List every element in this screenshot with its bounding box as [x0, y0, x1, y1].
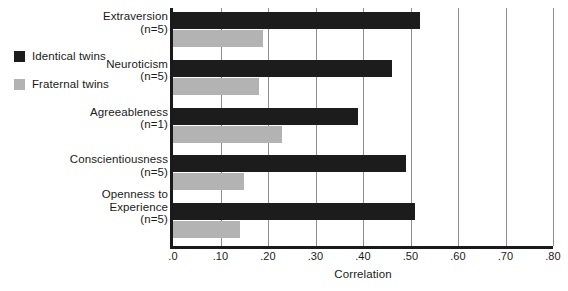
x-axis-line: [170, 246, 553, 249]
gridline: [506, 8, 507, 246]
category-label: Conscientiousness(n=5): [50, 153, 168, 178]
category-label: Extraversion(n=5): [50, 10, 168, 35]
bar-fraternal: [173, 221, 240, 238]
x-tick-label: .70: [498, 250, 514, 263]
x-tick-label: .50: [403, 250, 419, 263]
fraternal-twins-swatch: [14, 79, 25, 90]
x-tick-label: .80: [545, 250, 561, 263]
x-tick-label: .10: [213, 250, 229, 263]
category-label-name: Agreeableness: [50, 106, 168, 119]
category-axis-labels: Extraversion(n=5)Neuroticism(n=5)Agreeab…: [50, 8, 168, 246]
twin-correlation-bar-chart: Identical twins Fraternal twins Extraver…: [0, 0, 568, 291]
bar-identical: [173, 203, 415, 220]
category-label-name: Extraversion: [50, 10, 168, 23]
category-label: Neuroticism(n=5): [50, 58, 168, 83]
category-label-sample-size: (n=5): [50, 166, 168, 179]
category-label-sample-size: (n=5): [50, 213, 168, 226]
category-label-name: Experience: [50, 201, 168, 214]
gridline: [458, 8, 459, 246]
x-axis-tick-labels: .0.10.20.30.40.50.60.70.80: [173, 250, 553, 266]
category-label-sample-size: (n=1): [50, 118, 168, 131]
bar-fraternal: [173, 78, 259, 95]
x-tick-label: .20: [260, 250, 276, 263]
plot-area: [173, 8, 553, 246]
category-label-sample-size: (n=5): [50, 23, 168, 36]
x-tick-label: .40: [355, 250, 371, 263]
bar-identical: [173, 155, 406, 172]
x-tick-label: .0: [168, 250, 177, 263]
category-label-name: Neuroticism: [50, 58, 168, 71]
x-tick-label: .30: [308, 250, 324, 263]
bar-identical: [173, 108, 358, 125]
x-tick-label: .60: [450, 250, 466, 263]
identical-twins-swatch: [14, 51, 25, 62]
gridline: [553, 8, 554, 246]
bar-fraternal: [173, 30, 263, 47]
category-label-name: Conscientiousness: [50, 153, 168, 166]
category-label-sample-size: (n=5): [50, 70, 168, 83]
bar-identical: [173, 60, 392, 77]
bar-fraternal: [173, 173, 244, 190]
category-label: Agreeableness(n=1): [50, 106, 168, 131]
category-label-name: Openness to: [50, 188, 168, 201]
category-label: Openness toExperience(n=5): [50, 188, 168, 226]
x-axis-title: Correlation: [173, 268, 553, 280]
bar-identical: [173, 12, 420, 29]
bar-fraternal: [173, 126, 282, 143]
